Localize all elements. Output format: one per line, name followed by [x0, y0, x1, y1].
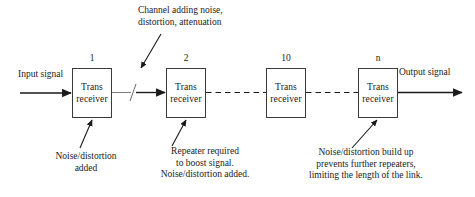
note-left-line1: Noise/distortion: [30, 151, 142, 163]
note-right-pointer: [352, 120, 377, 148]
transceiver-box-10-line2: receiver: [270, 93, 301, 105]
transceiver-box-1-line1: Trans: [81, 81, 103, 93]
note-middle: Repeater required to boost signal. Noise…: [140, 146, 270, 181]
note-middle-pointer: [172, 120, 186, 146]
channel-note-line2: distortion, attenuation: [138, 17, 223, 29]
transceiver-box-2: Trans receiver: [166, 68, 206, 118]
transceiver-box-n: Trans receiver: [358, 68, 398, 118]
node-number-1: 1: [72, 53, 112, 63]
note-right-line2: prevents further repeaters,: [288, 159, 444, 171]
channel-note: Channel adding noise, distortion, attenu…: [138, 5, 223, 28]
note-middle-line3: Noise/distortion added.: [140, 169, 270, 181]
transceiver-box-10-line1: Trans: [275, 81, 297, 93]
repeater-chain-diagram: 1 2 10 n Trans receiver Trans receiver T…: [0, 0, 475, 197]
node-number-n: n: [358, 53, 398, 63]
note-middle-line2: to boost signal.: [140, 158, 270, 170]
channel-note-pointer: [141, 34, 161, 68]
note-left: Noise/distortion added: [30, 151, 142, 174]
channel-note-line1: Channel adding noise,: [138, 5, 223, 17]
note-left-pointer: [80, 120, 92, 148]
transceiver-box-2-line2: receiver: [170, 93, 201, 105]
note-right-line1: Noise/distortion build up: [288, 147, 444, 159]
output-signal-label: Output signal: [399, 67, 450, 79]
input-signal-label: Input signal: [18, 69, 63, 81]
transceiver-box-n-line2: receiver: [362, 93, 393, 105]
note-right-line3: limiting the length of the link.: [288, 170, 444, 182]
note-right: Noise/distortion build up prevents furth…: [288, 147, 444, 182]
transceiver-box-2-line1: Trans: [175, 81, 197, 93]
node-number-2: 2: [166, 53, 206, 63]
note-left-line2: added: [30, 163, 142, 175]
transceiver-box-10: Trans receiver: [266, 68, 306, 118]
transceiver-box-1: Trans receiver: [72, 68, 112, 118]
transceiver-box-1-line2: receiver: [76, 93, 107, 105]
transceiver-box-n-line1: Trans: [367, 81, 389, 93]
node-number-10: 10: [266, 53, 306, 63]
note-middle-line1: Repeater required: [140, 146, 270, 158]
